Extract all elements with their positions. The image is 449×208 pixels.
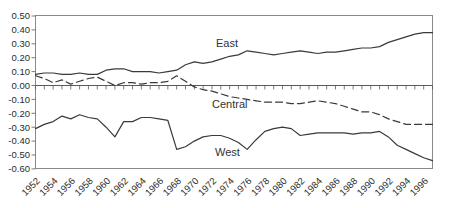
y-axis-tick-label: 0.40 [12,24,31,35]
x-axis-tick-label: 1978 [249,175,272,198]
x-axis-tick-label: 1960 [90,175,113,198]
y-axis-tick-label: -0.30 [8,122,30,133]
x-axis-tick-label: 1982 [284,175,307,198]
x-axis-tick-label: 1964 [125,175,148,198]
x-axis-tick-label: 1994 [390,175,413,198]
series-label-central: Central [212,98,247,110]
x-axis-tick-label: 1980 [266,175,289,198]
x-axis-tick-label: 1972 [196,175,219,198]
y-axis-tick-label: 0.30 [12,38,31,49]
x-axis-tick-label: 1990 [354,175,377,198]
x-axis-tick-label: 1988 [337,175,360,198]
x-axis-tick-label: 1986 [319,175,342,198]
series-label-west: West [215,146,240,158]
x-axis-tick-label: 1976 [231,175,254,198]
y-axis-tick-label: 0.50 [12,10,31,21]
x-axis-tick-label: 1968 [160,175,183,198]
line-chart: 0.500.400.300.200.100.00-0.10-0.20-0.30-… [0,0,449,208]
y-axis-tick-label: -0.10 [8,94,30,105]
y-axis-tick-label: 0.20 [12,52,31,63]
y-axis-tick-label: -0.20 [8,108,30,119]
x-axis-tick-label: 1956 [54,175,77,198]
x-axis-tick-label: 1962 [107,175,130,198]
y-axis-tick-label: 0.10 [12,66,31,77]
x-axis-tick-label: 1970 [178,175,201,198]
y-axis-tick-label: -0.50 [8,149,30,160]
x-axis-tick-label: 1984 [301,175,324,198]
chart-figure: 0.500.400.300.200.100.00-0.10-0.20-0.30-… [0,0,449,208]
series-label-east: East [216,37,238,49]
x-axis-tick-label: 1966 [143,175,166,198]
y-axis-tick-label: 0.00 [12,80,31,91]
y-axis-tick-label: -0.60 [8,163,30,174]
x-axis-tick-label: 1974 [213,175,236,198]
y-axis-tick-label: -0.40 [8,135,30,146]
x-axis-tick-label: 1954 [37,175,60,198]
x-axis-tick-label: 1958 [72,175,95,198]
x-axis-tick-label: 1952 [19,175,42,198]
x-axis-tick-label: 1996 [407,175,430,198]
x-axis-tick-label: 1992 [372,175,395,198]
